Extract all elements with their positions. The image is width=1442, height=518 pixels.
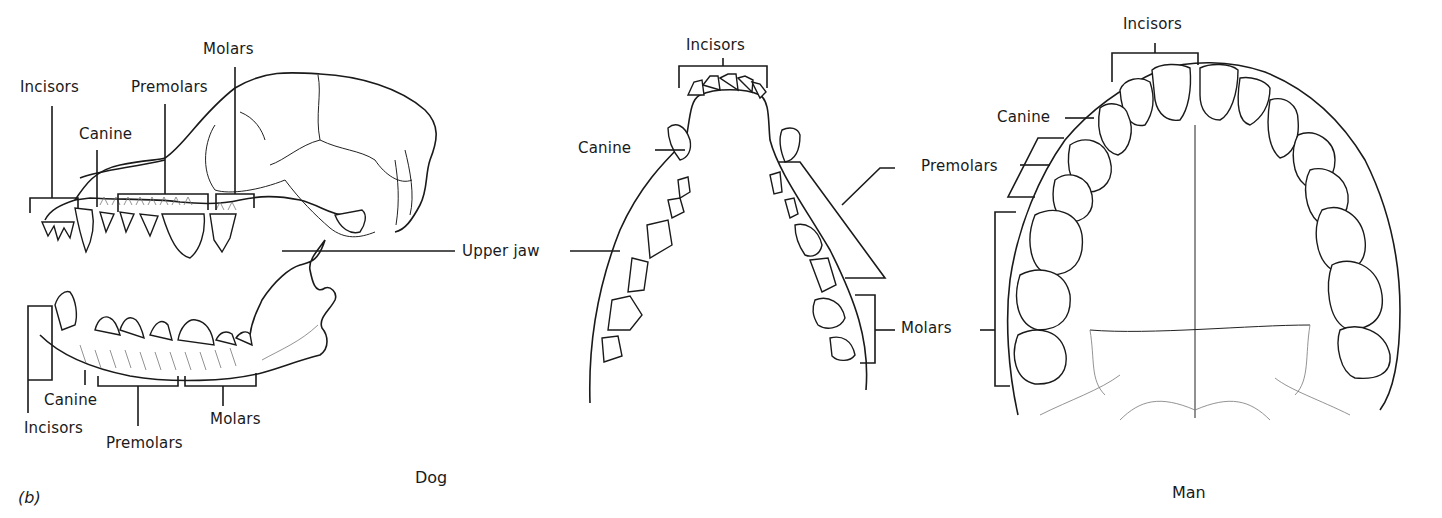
dog-lower-molars-label: Molars: [210, 412, 261, 427]
dog-palate-molars-label: Molars: [901, 321, 952, 336]
panel-label: (b): [18, 490, 41, 506]
upper-jaw-label: Upper jaw: [462, 244, 540, 259]
dog-skull-illustration: [30, 67, 436, 258]
dog-caption: Dog: [415, 470, 447, 486]
dog-palate-canine-label: Canine: [578, 141, 631, 156]
dog-palate-incisors-label: Incisors: [686, 38, 745, 53]
dog-palate-illustration: [590, 58, 895, 403]
man-caption: Man: [1172, 485, 1206, 501]
dog-upper-incisors-label: Incisors: [20, 80, 79, 95]
dog-upper-premolars-label: Premolars: [131, 80, 208, 95]
human-palate-illustration: [980, 43, 1400, 420]
dog-upper-molars-label: Molars: [203, 42, 254, 57]
dentition-diagram: [0, 0, 1442, 518]
dog-upper-canine-label: Canine: [79, 127, 132, 142]
dog-palate-premolars-label: Premolars: [921, 159, 998, 174]
dog-lower-premolars-label: Premolars: [106, 436, 183, 451]
dog-lower-canine-label: Canine: [44, 393, 97, 408]
dog-lower-incisors-label: Incisors: [24, 421, 83, 436]
man-canine-label: Canine: [997, 110, 1050, 125]
man-incisors-label: Incisors: [1123, 17, 1182, 32]
